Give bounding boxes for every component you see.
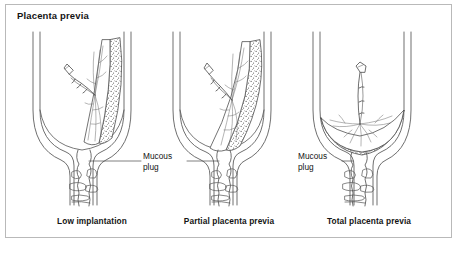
callout-line-1: Mucous	[298, 151, 327, 161]
callout-line-2: plug	[298, 162, 327, 173]
figure-title: Placenta previa	[17, 10, 89, 21]
callout-line-1: Mucous	[143, 151, 172, 161]
callout-mucous-plug-right: Mucous plug	[298, 151, 327, 172]
callout-line-2: plug	[143, 162, 172, 173]
placenta-previa-figure: Placenta previa	[0, 0, 458, 257]
callout-mucous-plug-center: Mucous plug	[143, 151, 172, 172]
panel-caption-low-implantation: Low implantation	[57, 216, 127, 226]
panel-caption-partial-placenta-previa: Partial placenta previa	[184, 216, 274, 226]
panel-caption-total-placenta-previa: Total placenta previa	[327, 216, 411, 226]
figure-border	[5, 4, 452, 238]
